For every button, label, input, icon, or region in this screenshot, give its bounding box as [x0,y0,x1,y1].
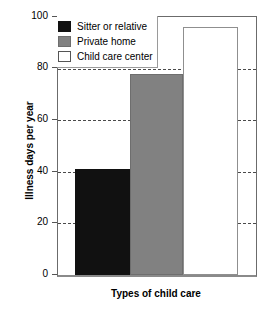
legend-item-child-care-center: Child care center [58,49,153,64]
legend-item-private-home: Private home [58,34,153,49]
y-tick-label-40: 40 [20,166,48,176]
y-tick-label-100: 100 [20,11,48,21]
legend-label-private-home: Private home [77,36,136,47]
bar-chart: Illness days per year 100 80 60 40 20 0 … [0,0,271,315]
y-tick-label-80: 80 [20,62,48,72]
y-tick-label-20: 20 [20,217,48,227]
legend-label-child-care-center: Child care center [77,51,153,62]
legend-item-sitter-or-relative: Sitter or relative [58,19,153,34]
bar-private-home [130,74,183,275]
legend-swatch-icon-child-care-center [58,51,71,62]
legend-label-sitter-or-relative: Sitter or relative [77,21,147,32]
legend: Sitter or relative Private home Child ca… [57,16,158,68]
legend-swatch-icon-private-home [58,36,71,47]
bar-sitter-or-relative [75,169,130,275]
legend-swatch-icon-sitter-or-relative [58,21,71,32]
x-axis-title: Types of child care [57,288,255,299]
y-tick-label-60: 60 [20,114,48,124]
y-tick-label-0: 0 [20,269,48,279]
y-axis-title: Illness days per year [24,71,35,231]
bar-child-care-center [183,27,238,275]
